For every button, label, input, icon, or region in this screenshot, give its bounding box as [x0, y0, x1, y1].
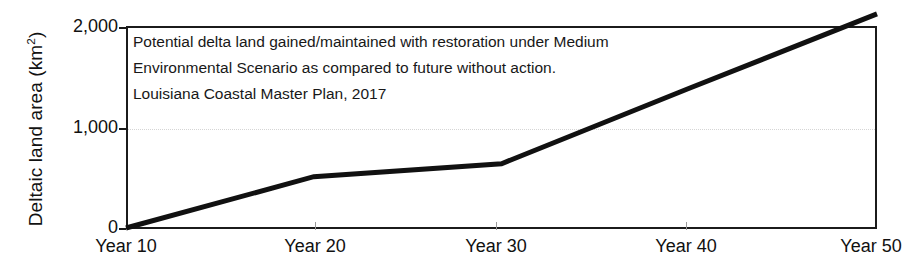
x-tick-label-year-20: Year 20 [250, 236, 380, 257]
x-tick-label-year-30: Year 30 [431, 236, 561, 257]
x-tick-mark-year-20 [315, 222, 316, 230]
x-axis-ticks: Year 10 Year 20 Year 30 Year 40 Year 50 [0, 0, 909, 271]
x-tick-mark-year-30 [496, 222, 497, 230]
x-tick-label-year-10: Year 10 [61, 236, 191, 257]
x-tick-mark-year-40 [686, 222, 687, 230]
x-tick-label-year-40: Year 40 [621, 236, 751, 257]
line-chart-figure: Deltaic land area (km2) 2,000 1,000 0 Po… [0, 0, 909, 271]
x-tick-label-year-50: Year 50 [806, 236, 909, 257]
